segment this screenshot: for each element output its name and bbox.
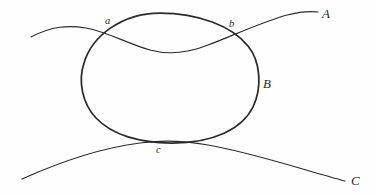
curve-label-a: A (322, 7, 330, 20)
point-label-b: b (229, 19, 234, 30)
point-label-a: a (105, 16, 110, 27)
point-label-c: c (156, 145, 161, 156)
curve-c-path (22, 141, 345, 181)
figure-canvas: a b c A B C (0, 0, 377, 195)
curve-b-closed-path (81, 13, 259, 143)
curve-a-path (31, 12, 318, 53)
curve-label-c: C (351, 174, 360, 187)
curve-diagram-svg (0, 0, 377, 195)
curve-label-b: B (263, 77, 271, 90)
